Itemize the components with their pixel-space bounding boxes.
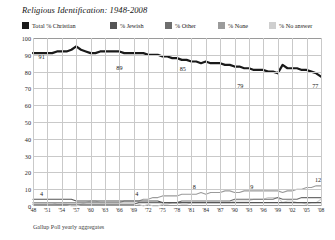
x-tick-label: '90	[231, 207, 238, 213]
y-tick-label: 80	[25, 68, 31, 75]
gridline-vertical	[134, 38, 135, 206]
x-tick-label: '48	[30, 207, 37, 213]
chart-source-note: Gallup Poll yearly aggregates	[33, 224, 104, 230]
gridline-vertical	[191, 38, 192, 206]
data-label: 85	[180, 65, 186, 72]
x-tick-label: '69	[130, 207, 137, 213]
legend-item-2[interactable]: % Other	[165, 22, 196, 29]
x-tick-label: '66	[116, 207, 123, 213]
x-tick-label: '54	[58, 207, 65, 213]
x-tick-label: '87	[217, 207, 224, 213]
data-label: 9	[250, 182, 253, 189]
legend-label: % None	[228, 22, 248, 29]
y-tick-label: 10	[25, 186, 31, 193]
x-tick-label: '96	[260, 207, 267, 213]
data-label: 77	[312, 82, 318, 89]
x-tick-label: '02	[289, 207, 296, 213]
gridline-vertical	[278, 38, 279, 206]
chart-legend: Total % Christian% Jewish% Other% None% …	[22, 22, 322, 34]
legend-item-1[interactable]: % Jewish	[110, 22, 144, 29]
gridline-vertical	[163, 38, 164, 206]
legend-swatch-icon	[165, 22, 172, 29]
x-axis-labels: '48'51'54'57'60'63'66'69'72'75'78'81'84'…	[33, 207, 321, 219]
x-tick-label: '78	[174, 207, 181, 213]
gridline-vertical	[177, 38, 178, 206]
gridline-vertical	[62, 38, 63, 206]
legend-swatch-icon	[218, 22, 225, 29]
x-tick-label: '81	[188, 207, 195, 213]
gridline-vertical	[148, 38, 149, 206]
legend-item-4[interactable]: % No answer	[269, 22, 312, 29]
gridline-vertical	[105, 38, 106, 206]
data-label: 79	[237, 82, 243, 89]
x-tick-label: '51	[44, 207, 51, 213]
y-tick-label: 60	[25, 102, 31, 109]
x-tick-label: '08	[318, 207, 325, 213]
data-label: 8	[193, 182, 196, 189]
y-tick-label: 40	[25, 135, 31, 142]
plot-area: 9189857977448912	[33, 38, 321, 206]
legend-swatch-icon	[269, 22, 276, 29]
gridline-vertical	[91, 38, 92, 206]
x-tick-label: '72	[145, 207, 152, 213]
y-tick-label: 20	[25, 169, 31, 176]
gridline-vertical	[220, 38, 221, 206]
y-tick-label: 100	[22, 35, 31, 42]
x-tick-label: '75	[159, 207, 166, 213]
y-axis-labels: 0102030405060708090100	[0, 38, 31, 206]
x-tick-label: '57	[73, 207, 80, 213]
data-label: 89	[116, 63, 122, 70]
x-tick-label: '05	[303, 207, 310, 213]
y-tick-label: 90	[25, 51, 31, 58]
gridline-vertical	[235, 38, 236, 206]
legend-label: Total % Christian	[32, 22, 76, 29]
gridline-vertical	[249, 38, 250, 206]
gridline-vertical	[206, 38, 207, 206]
x-tick-label: '60	[87, 207, 94, 213]
y-tick-label: 50	[25, 119, 31, 126]
chart-page: Religious Identification: 1948-2008 Tota…	[0, 0, 335, 240]
page-title: Religious Identification: 1948-2008	[22, 5, 147, 15]
x-tick-label: '93	[246, 207, 253, 213]
data-label: 12	[315, 176, 321, 183]
data-label: 91	[39, 53, 45, 60]
x-tick-label: '99	[274, 207, 281, 213]
legend-item-0[interactable]: Total % Christian	[22, 22, 76, 29]
gridline-vertical	[33, 38, 34, 206]
data-label: 4	[40, 189, 43, 196]
gridline-vertical	[292, 38, 293, 206]
gridline-vertical	[76, 38, 77, 206]
legend-item-3[interactable]: % None	[218, 22, 248, 29]
y-tick-label: 30	[25, 152, 31, 159]
gridline-vertical	[47, 38, 48, 206]
legend-swatch-icon	[22, 22, 29, 29]
x-tick-label: '84	[202, 207, 209, 213]
legend-label: % Other	[175, 22, 196, 29]
legend-swatch-icon	[110, 22, 117, 29]
x-tick-label: '63	[102, 207, 109, 213]
gridline-vertical	[307, 38, 308, 206]
gridline-vertical	[263, 38, 264, 206]
legend-label: % No answer	[279, 22, 312, 29]
legend-label: % Jewish	[120, 22, 144, 29]
data-label: 4	[135, 189, 138, 196]
y-tick-label: 70	[25, 85, 31, 92]
